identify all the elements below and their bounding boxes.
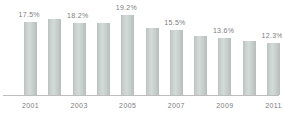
bar xyxy=(218,38,231,95)
bar-chart: 17.5%18.2%19.2%15.5%13.6%12.3% 200120032… xyxy=(0,0,282,118)
bar xyxy=(121,15,134,95)
bar xyxy=(170,30,183,95)
x-tick-label: 2001 xyxy=(22,102,39,109)
bar-value-label: 13.6% xyxy=(213,27,234,34)
plot-area: 17.5%18.2%19.2%15.5%13.6%12.3% xyxy=(0,0,282,96)
bar-value-label: 17.5% xyxy=(19,11,40,18)
bar-value-label: 18.2% xyxy=(67,12,88,19)
x-tick-label: 2011 xyxy=(265,102,282,109)
bar xyxy=(73,23,86,95)
bar xyxy=(194,36,207,96)
bar-value-label: 12.3% xyxy=(262,32,283,39)
x-tick-label: 2007 xyxy=(168,102,185,109)
x-tick-label: 2003 xyxy=(71,102,88,109)
bar xyxy=(97,23,110,95)
bar xyxy=(48,19,61,95)
x-axis-label-row: 200120032005200720092011 xyxy=(0,99,282,118)
bar xyxy=(146,28,159,95)
bar xyxy=(243,41,256,95)
bar xyxy=(267,43,280,95)
x-axis-line xyxy=(3,95,279,96)
x-tick-label: 2005 xyxy=(119,102,136,109)
bar xyxy=(24,22,37,95)
bar-value-label: 15.5% xyxy=(164,19,185,26)
bar-value-label: 19.2% xyxy=(116,4,137,11)
x-tick-label: 2009 xyxy=(216,102,233,109)
